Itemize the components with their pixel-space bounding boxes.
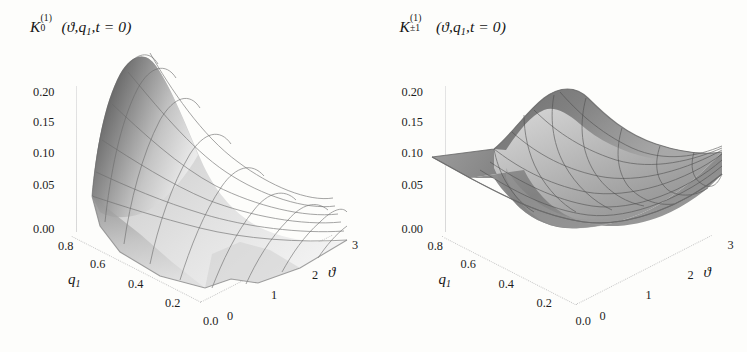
surface-plot-left xyxy=(0,0,373,352)
figure-two-surface-plots: K(1)0 (ϑ,q1,t = 0) 0.20 0.15 0.10 0.05 0… xyxy=(0,0,747,352)
panel-left: K(1)0 (ϑ,q1,t = 0) 0.20 0.15 0.10 0.05 0… xyxy=(0,0,374,352)
panel-right: K(1)±1 (ϑ,q1,t = 0) 0.20 0.15 0.10 0.05 … xyxy=(374,0,747,352)
surface-svg-right xyxy=(374,0,747,352)
surface-svg-left xyxy=(0,0,373,352)
surface-plot-right xyxy=(374,0,747,352)
